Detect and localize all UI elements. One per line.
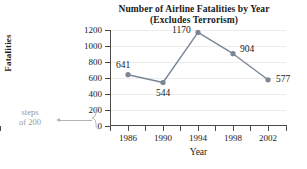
x-tick-label-1990: 1990 xyxy=(143,133,183,143)
chart-title: Number of Airline Fatalities by Year (Ex… xyxy=(85,4,303,26)
x-tick-mark-1994 xyxy=(198,126,199,131)
x-tick-label-2002: 2002 xyxy=(248,133,288,143)
x-tick-mark-1996 xyxy=(215,126,216,131)
chart-figure: Number of Airline Fatalities by Year (Ex… xyxy=(0,0,307,169)
annotation-line-1: steps xyxy=(4,107,56,117)
y-tick-label-1200: 1200 xyxy=(70,26,102,35)
y-tick-label-800: 800 xyxy=(70,58,102,67)
x-tick-mark-1990 xyxy=(163,126,164,131)
x-tick-mark-2004 xyxy=(286,126,287,131)
gridline-600 xyxy=(111,78,286,79)
x-tick-mark-2000 xyxy=(250,126,251,131)
annotation-line-2: of 200 xyxy=(4,117,56,127)
data-label-1990: 544 xyxy=(156,88,170,98)
x-tick-mark-1986 xyxy=(0,126,1,131)
chart-title-line-2: (Excludes Terrorism) xyxy=(85,15,303,26)
annotation-steps-of-200: steps of 200 xyxy=(4,107,56,127)
gridline-1200 xyxy=(111,30,286,31)
data-label-1998: 904 xyxy=(240,44,254,54)
y-tick-mark-200 xyxy=(105,110,110,111)
gridline-200 xyxy=(111,110,286,111)
y-axis-line xyxy=(110,30,111,126)
y-axis-title: Fatalities xyxy=(3,18,13,88)
x-tick-mark-1986b xyxy=(128,126,129,131)
y-tick-label-400: 400 xyxy=(70,90,102,99)
annotation-brace-icon xyxy=(90,106,100,130)
chart-title-line-1: Number of Airline Fatalities by Year xyxy=(118,4,269,14)
x-tick-mark-2002 xyxy=(268,126,269,131)
x-axis-title: Year xyxy=(110,147,287,157)
data-label-2002: 577 xyxy=(276,74,290,84)
y-tick-mark-600 xyxy=(105,78,110,79)
data-label-1994: 1170 xyxy=(172,25,191,35)
data-point-1990 xyxy=(160,80,165,85)
x-tick-label-1994: 1994 xyxy=(178,133,218,143)
gridline-1000 xyxy=(111,46,286,47)
y-tick-mark-1200 xyxy=(105,30,110,31)
data-label-1986: 641 xyxy=(116,60,130,70)
annotation-leader-line xyxy=(58,120,92,121)
data-point-1986 xyxy=(125,72,130,77)
x-tick-mark-1984 xyxy=(110,126,111,131)
y-tick-label-1000: 1000 xyxy=(70,42,102,51)
x-tick-mark-1998 xyxy=(233,126,234,131)
series-polyline xyxy=(128,32,268,82)
x-tick-mark-1988 xyxy=(145,126,146,131)
y-tick-mark-400 xyxy=(105,94,110,95)
x-tick-label-1986: 1986 xyxy=(108,133,148,143)
gridline-400 xyxy=(111,94,286,95)
y-tick-mark-1000 xyxy=(105,46,110,47)
y-tick-label-600: 600 xyxy=(70,74,102,83)
x-tick-mark-1992 xyxy=(180,126,181,131)
x-tick-label-1998: 1998 xyxy=(213,133,253,143)
data-point-1998 xyxy=(230,51,235,56)
gridline-800 xyxy=(111,62,286,63)
y-tick-mark-800 xyxy=(105,62,110,63)
